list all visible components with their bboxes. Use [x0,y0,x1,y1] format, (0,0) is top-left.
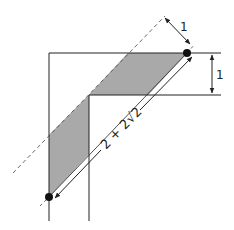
corridor-diagram: 1 1 2 + 2 √2 [0,0,234,230]
corridor-width-label: 1 [216,68,224,82]
perpendicular-distance-label: 1 [180,20,188,34]
endpoint-bottom-left [45,193,53,201]
shaded-band-lower [49,95,89,197]
shaded-band-upper [89,53,187,95]
segment-length-label-group: 2 + 2 √2 [97,104,144,152]
endpoint-top-right [183,49,191,57]
diagram-canvas: 1 1 2 + 2 √2 [0,0,234,230]
